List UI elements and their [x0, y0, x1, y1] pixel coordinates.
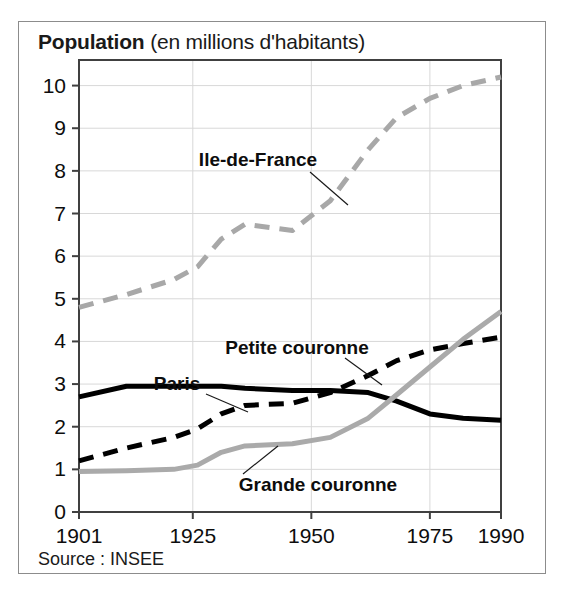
series-annotation-petite-couronne: Petite couronne: [225, 337, 369, 359]
x-axis-tick-label: 1901: [56, 524, 103, 548]
series-line-paris: [79, 386, 501, 420]
x-axis-tick-label: 1950: [288, 524, 335, 548]
y-axis-tick-label: 6: [54, 244, 66, 268]
y-axis-tick-label: 0: [54, 500, 66, 524]
series-annotation-paris: Paris: [154, 373, 200, 395]
y-axis-tick-label: 1: [54, 457, 66, 481]
series-annotation-grande-couronne: Grande couronne: [239, 474, 397, 496]
x-axis-tick-label: 1975: [407, 524, 454, 548]
chart-figure: Population (en millions d'habitants) 012…: [0, 0, 570, 597]
series-line-ile-de-france: [79, 77, 501, 307]
y-axis-tick-label: 9: [54, 116, 66, 140]
y-axis-tick-label: 3: [54, 372, 66, 396]
x-axis-tick-label: 1925: [169, 524, 216, 548]
y-axis-tick-label: 2: [54, 415, 66, 439]
y-axis-tick-label: 7: [54, 202, 66, 226]
y-axis-tick-label: 4: [54, 329, 66, 353]
source-note: Source : INSEE: [38, 549, 164, 570]
y-axis-tick-label: 5: [54, 287, 66, 311]
y-axis-tick-label: 8: [54, 159, 66, 183]
x-axis-tick-label: 1990: [478, 524, 525, 548]
y-axis-tick-label: 10: [43, 74, 66, 98]
chart-plot: [0, 0, 570, 597]
series-annotation-ile-de-france: Ile-de-France: [199, 149, 317, 171]
